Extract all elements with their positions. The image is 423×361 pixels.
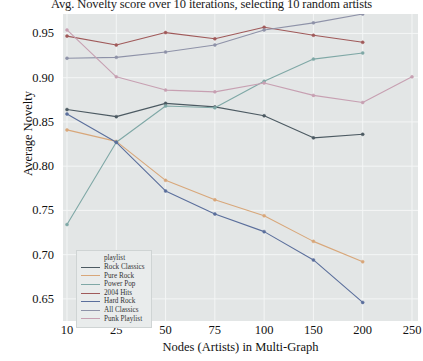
legend-item-label: Power Pop bbox=[104, 280, 135, 289]
legend-item-label: Rock Classics bbox=[104, 263, 145, 272]
series-marker bbox=[361, 260, 364, 263]
legend-item-label: Hard Rock bbox=[104, 297, 135, 306]
legend-color-swatch bbox=[81, 318, 100, 319]
series-marker bbox=[66, 57, 69, 60]
series-marker bbox=[361, 14, 364, 16]
series-marker bbox=[312, 94, 315, 97]
series-marker bbox=[213, 90, 216, 93]
legend-item[interactable]: All Classics bbox=[81, 306, 145, 315]
series-marker bbox=[66, 35, 69, 38]
legend-item[interactable]: Pure Rock bbox=[81, 272, 145, 281]
legend-color-swatch bbox=[81, 310, 100, 311]
legend-item[interactable]: Power Pop bbox=[81, 280, 145, 289]
series-marker bbox=[312, 58, 315, 61]
legend-item-label: Pure Rock bbox=[104, 272, 134, 281]
series-marker bbox=[263, 82, 266, 85]
x-tick-label: 150 bbox=[293, 323, 333, 338]
legend-item[interactable]: Punk Playlist bbox=[81, 315, 145, 324]
series-marker bbox=[66, 128, 69, 131]
series-marker bbox=[115, 43, 118, 46]
legend-item[interactable]: Rock Classics bbox=[81, 263, 145, 272]
series-marker bbox=[213, 43, 216, 46]
series-marker bbox=[263, 28, 266, 31]
legend-color-swatch bbox=[81, 284, 100, 285]
legend-color-swatch bbox=[81, 275, 100, 276]
series-marker bbox=[312, 21, 315, 24]
series-marker bbox=[361, 51, 364, 54]
series-marker bbox=[263, 230, 266, 233]
x-tick-label: 250 bbox=[392, 323, 423, 338]
series-marker bbox=[66, 223, 69, 226]
series-marker bbox=[361, 41, 364, 44]
series-marker bbox=[164, 105, 167, 108]
series-marker bbox=[164, 31, 167, 34]
series-marker bbox=[263, 214, 266, 217]
series-marker bbox=[312, 258, 315, 261]
legend-item[interactable]: 2004 Hits bbox=[81, 289, 145, 298]
x-tick-label: 100 bbox=[244, 323, 284, 338]
series-marker bbox=[361, 301, 364, 304]
legend-color-swatch bbox=[81, 301, 100, 302]
x-tick-label: 200 bbox=[343, 323, 383, 338]
series-marker bbox=[115, 75, 118, 78]
series-marker bbox=[213, 37, 216, 40]
series-line bbox=[67, 30, 412, 103]
series-marker bbox=[213, 198, 216, 201]
legend-item-label: Punk Playlist bbox=[104, 315, 142, 324]
series-marker bbox=[115, 141, 118, 144]
legend-title: playlist bbox=[81, 254, 145, 263]
series-marker bbox=[66, 112, 69, 115]
series-marker bbox=[213, 212, 216, 215]
x-tick-label: 50 bbox=[146, 323, 186, 338]
series-marker bbox=[164, 51, 167, 54]
legend-color-swatch bbox=[81, 293, 100, 294]
series-marker bbox=[164, 179, 167, 182]
series-marker bbox=[164, 89, 167, 92]
x-tick-label: 75 bbox=[195, 323, 235, 338]
series-marker bbox=[312, 136, 315, 139]
legend-item-label: 2004 Hits bbox=[104, 289, 132, 298]
series-marker bbox=[312, 240, 315, 243]
series-marker bbox=[361, 133, 364, 136]
legend-item-label: All Classics bbox=[104, 306, 139, 315]
series-marker bbox=[115, 56, 118, 59]
series-marker bbox=[411, 75, 414, 78]
legend-item[interactable]: Hard Rock bbox=[81, 297, 145, 306]
series-marker bbox=[66, 108, 69, 111]
series-marker bbox=[213, 106, 216, 109]
series-marker bbox=[66, 28, 69, 31]
series-marker bbox=[164, 189, 167, 192]
legend-color-swatch bbox=[81, 267, 100, 268]
series-marker bbox=[361, 101, 364, 104]
series-marker bbox=[263, 114, 266, 117]
series-marker bbox=[115, 115, 118, 118]
legend: playlist Rock ClassicsPure RockPower Pop… bbox=[76, 250, 152, 328]
novelty-line-chart: Avg. Novelty score over 10 iterations, s… bbox=[0, 0, 423, 361]
series-marker bbox=[312, 34, 315, 37]
